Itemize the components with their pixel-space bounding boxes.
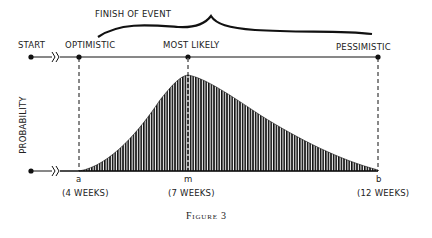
a-value: (4 WEEKS) [62, 188, 109, 198]
a-symbol: a [76, 174, 81, 184]
brace-label: FINISH OF EVENT [95, 9, 171, 19]
m-symbol: m [184, 174, 192, 184]
probability-axis-label: PROBABILITY [18, 88, 28, 162]
optimistic-label: OPTIMISTIC [65, 40, 115, 50]
baseline-dot [28, 168, 33, 173]
baseline-break-icon [52, 166, 59, 176]
pert-diagram [0, 0, 432, 238]
figure-caption: Figure 3 [186, 210, 227, 221]
probability-curve [79, 75, 378, 171]
b-value: (12 WEEKS) [357, 188, 409, 198]
pessimistic-label: PESSIMISTIC [336, 42, 391, 52]
start-dot [28, 54, 33, 59]
brace [98, 16, 372, 37]
most-likely-label: MOST LIKELY [163, 40, 220, 50]
b-symbol: b [376, 174, 382, 184]
m-value: (7 WEEKS) [168, 188, 215, 198]
break-icon [52, 52, 59, 62]
start-label: START [18, 40, 45, 50]
